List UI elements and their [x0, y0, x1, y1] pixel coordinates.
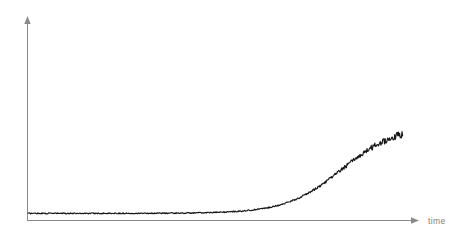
y-axis [24, 16, 30, 221]
chart-canvas: time [0, 0, 468, 238]
x-axis-label: time [428, 216, 445, 226]
y-axis-arrowhead [24, 16, 30, 24]
x-axis-arrowhead [411, 217, 419, 223]
growth-curve-line [28, 132, 403, 214]
x-axis [27, 217, 419, 223]
growth-curve-figure: time [0, 0, 468, 238]
